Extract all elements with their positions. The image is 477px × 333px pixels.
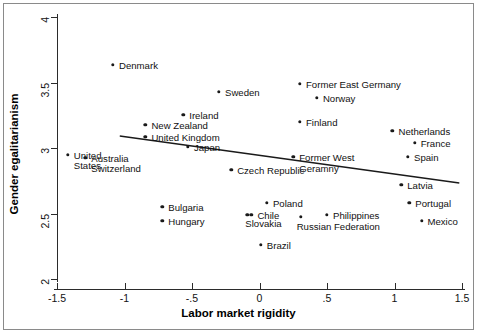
- data-point-label: France: [421, 139, 451, 150]
- data-point-label: Latvia: [407, 181, 433, 192]
- data-point-label: Former East Germany: [306, 80, 401, 91]
- data-point-label: Brazil: [267, 241, 291, 252]
- data-point-label: Spain: [414, 153, 439, 164]
- data-point-label: Hungary: [168, 217, 204, 228]
- data-point-label: Czech Republic: [237, 166, 304, 177]
- data-point-label: Australia Switzerland: [91, 154, 141, 175]
- data-point-label: New Zealand: [151, 121, 208, 132]
- data-point-label: Norway: [323, 94, 356, 105]
- data-point-label: Former West Geramny: [299, 153, 354, 174]
- data-point-label: Poland: [273, 199, 303, 210]
- data-point-label: Mexico: [428, 217, 458, 228]
- data-point-label: Russian Federation: [297, 222, 380, 233]
- data-point-label: Bulgaria: [168, 203, 203, 214]
- data-point-label: Portugal: [415, 199, 451, 210]
- data-point-label: Japan: [194, 143, 220, 154]
- x-axis-title: Labor market rigidity: [0, 307, 477, 319]
- data-point-label: Slovakia: [245, 219, 281, 230]
- data-point-label: Denmark: [119, 61, 158, 72]
- data-point-label: Netherlands: [398, 127, 450, 138]
- y-axis-title: Gender egalitarianism: [8, 4, 20, 304]
- data-point-label: Philippines: [333, 211, 379, 222]
- scatter-plot-figure: 22.533.54 -1.5-1-.50.511.5 DenmarkIrelan…: [0, 0, 477, 333]
- data-point-label: Sweden: [225, 88, 260, 99]
- data-point-label: Finland: [306, 118, 337, 129]
